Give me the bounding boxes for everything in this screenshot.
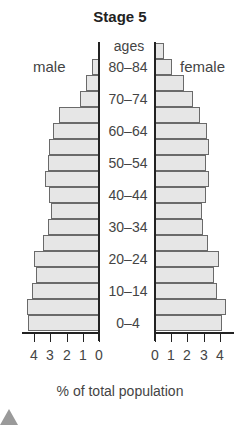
age-group-label: 20–24 xyxy=(100,251,156,267)
male-label: male xyxy=(33,58,66,75)
x-tick-label: 0 xyxy=(148,347,162,363)
female-bar xyxy=(155,43,164,59)
x-tick-label: 4 xyxy=(213,347,227,363)
age-group-label: 40–44 xyxy=(100,187,156,203)
female-bar xyxy=(155,203,202,219)
x-tick xyxy=(171,334,172,342)
age-group-label: 0–4 xyxy=(100,315,156,331)
triangle-marker-icon xyxy=(0,409,18,425)
female-bar xyxy=(155,155,206,171)
male-bar xyxy=(53,123,99,139)
female-bar xyxy=(155,91,193,107)
female-bar xyxy=(155,251,219,267)
male-bar xyxy=(51,203,99,219)
male-bar xyxy=(43,235,99,251)
male-bar xyxy=(49,187,99,203)
female-bar xyxy=(155,75,184,91)
female-bar xyxy=(155,299,226,315)
age-group-label: 30–34 xyxy=(100,219,156,235)
male-bar xyxy=(49,139,99,155)
age-group-label: 70–74 xyxy=(100,91,156,107)
x-tick xyxy=(204,334,205,342)
female-bar xyxy=(155,235,208,251)
x-tick-label: 3 xyxy=(197,347,211,363)
x-tick-label: 2 xyxy=(60,347,74,363)
chart-title: Stage 5 xyxy=(0,8,240,25)
x-tick xyxy=(155,334,156,342)
male-bar xyxy=(48,155,99,171)
female-label: female xyxy=(180,58,225,75)
x-tick-label: 1 xyxy=(76,347,90,363)
male-bar xyxy=(45,171,99,187)
female-bar xyxy=(155,139,209,155)
x-tick-label: 3 xyxy=(43,347,57,363)
male-bar xyxy=(28,315,99,331)
x-tick xyxy=(83,334,84,342)
x-tick-label: 1 xyxy=(164,347,178,363)
female-bar xyxy=(155,187,206,203)
age-group-label: 50–54 xyxy=(100,155,156,171)
x-tick xyxy=(50,334,51,342)
age-group-label: 80–84 xyxy=(100,59,156,75)
male-bar xyxy=(27,299,99,315)
male-bar xyxy=(59,107,99,123)
female-baseline xyxy=(154,332,234,334)
x-tick xyxy=(67,334,68,342)
female-bar xyxy=(155,107,200,123)
female-bar xyxy=(155,283,217,299)
female-bar xyxy=(155,267,214,283)
x-tick xyxy=(187,334,188,342)
male-bar xyxy=(80,91,99,107)
age-group-label: 10–14 xyxy=(100,283,156,299)
female-bar xyxy=(155,171,209,187)
x-axis-label: % of total population xyxy=(0,383,240,399)
male-bar xyxy=(36,267,99,283)
ages-axis-label: ages xyxy=(106,38,152,54)
male-bar xyxy=(48,219,99,235)
male-bar xyxy=(34,251,99,267)
x-tick xyxy=(34,334,35,342)
x-tick-label: 0 xyxy=(92,347,106,363)
female-bar xyxy=(155,219,203,235)
female-bar xyxy=(155,315,222,331)
x-tick-label: 4 xyxy=(27,347,41,363)
male-bar xyxy=(32,283,99,299)
x-tick xyxy=(220,334,221,342)
female-bar xyxy=(155,59,172,75)
female-bar xyxy=(155,123,207,139)
x-tick xyxy=(99,334,100,342)
age-group-label: 60–64 xyxy=(100,123,156,139)
x-tick-label: 2 xyxy=(180,347,194,363)
